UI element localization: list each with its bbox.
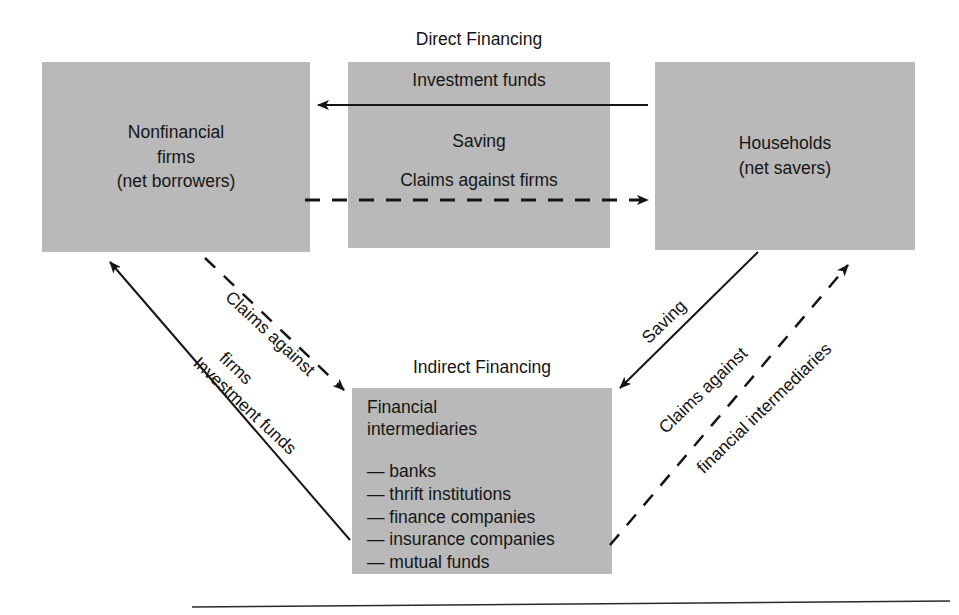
arrow-claims-against-intermediaries-diagonal	[610, 265, 848, 545]
diagram-canvas: Nonfinancial firms (net borrowers) House…	[0, 0, 959, 615]
arrow-layer	[0, 0, 959, 615]
bottom-divider-rule	[192, 601, 950, 607]
